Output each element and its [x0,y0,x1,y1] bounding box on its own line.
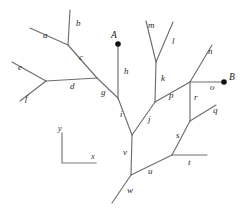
branch-label-k: k [161,73,166,83]
branch-label-n: n [208,46,213,56]
point-label-b: B [229,72,235,82]
tree-diagram-canvas: abcdefghijklmnopqrstuvw x y AB [0,0,242,210]
point-marker-b [221,79,227,85]
branch-j [132,102,155,135]
branch-label-w: w [127,185,133,195]
branch-label-g: g [101,87,106,97]
branch-label-j: j [147,114,151,124]
branch-label-e: e [18,62,22,72]
branch-label-v: v [123,147,127,157]
axis-indicator: x y [57,123,96,163]
branch-f [20,81,46,101]
branch-s [172,121,190,155]
branch-label-m: m [148,20,155,30]
branch-label-p: p [168,90,174,100]
branch-l [156,22,173,62]
branch-label-a: a [43,30,48,40]
point-marker-a [115,41,121,47]
branch-label-s: s [176,130,180,140]
branch-label-o: o [210,82,215,92]
branch-b [68,10,70,45]
branch-label-c: c [79,52,83,62]
branch-v [131,135,132,175]
branch-label-l: l [172,36,175,46]
branch-label-r: r [194,92,198,102]
branch-k [155,62,156,102]
branch-label-d: d [70,81,75,91]
axis-x-label: x [90,151,95,161]
branch-label-u: u [148,166,153,176]
branch-a [30,28,68,45]
branch-label-b: b [76,18,81,28]
axis-y-label: y [57,123,62,133]
branch-label-t: t [188,157,191,167]
tree-diagram-figure: abcdefghijklmnopqrstuvw x y AB [0,0,242,210]
branch-label-h: h [124,66,129,76]
branch-label-q: q [213,105,218,115]
point-label-a: A [110,30,117,40]
